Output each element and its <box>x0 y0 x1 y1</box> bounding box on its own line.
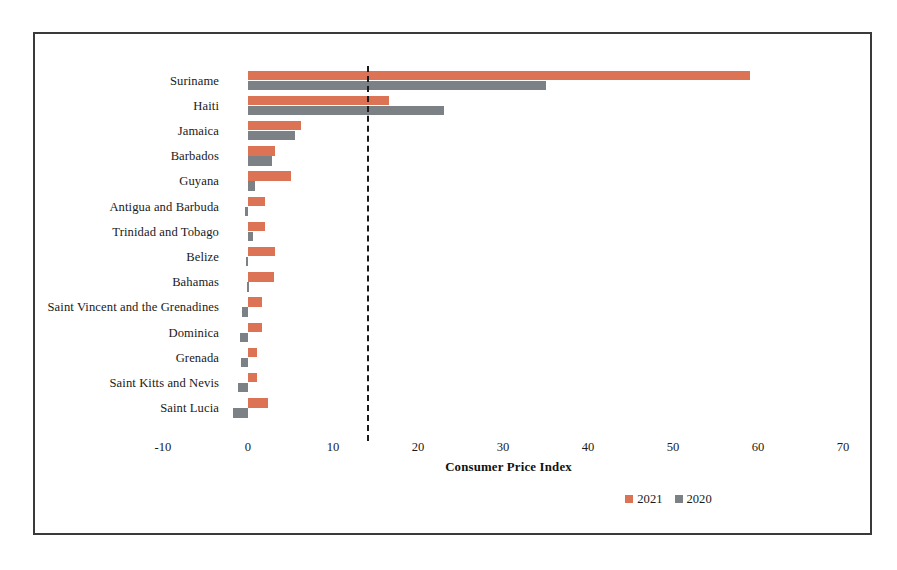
chart-page: SurinameHaitiJamaicaBarbadosGuyanaAntigu… <box>0 0 897 570</box>
bar-2020-grenada <box>241 358 248 368</box>
bar-2020-suriname <box>248 81 546 91</box>
chart-row: Dominica <box>35 320 870 345</box>
category-label: Antigua and Barbuda <box>109 200 219 213</box>
x-axis-title-text: Consumer Price Index <box>445 460 572 474</box>
x-axis-title: Consumer Price Index <box>35 460 870 475</box>
category-label: Grenada <box>176 351 219 364</box>
legend-swatch-2020 <box>675 495 683 503</box>
legend-label: 2020 <box>687 492 712 506</box>
bar-2020-saint-vincent-and-the-grenadines <box>242 307 248 317</box>
reference-line <box>367 66 369 441</box>
category-label: Trinidad and Tobago <box>112 225 219 238</box>
chart-row: Bahamas <box>35 270 870 295</box>
bar-2021-suriname <box>248 71 750 81</box>
category-label: Saint Vincent and the Grenadines <box>48 301 219 314</box>
chart-row: Guyana <box>35 169 870 194</box>
x-axis: -10010203040506070 <box>35 440 870 460</box>
legend: 20212020 <box>35 492 870 507</box>
bar-2021-saint-kitts-and-nevis <box>248 373 257 383</box>
x-axis-tick: 20 <box>412 440 425 455</box>
bar-2020-belize <box>246 257 248 267</box>
x-axis-tick: 60 <box>752 440 765 455</box>
x-axis-tick: 30 <box>497 440 510 455</box>
bar-2021-guyana <box>248 171 291 181</box>
chart-row: Grenada <box>35 345 870 370</box>
plot-area: SurinameHaitiJamaicaBarbadosGuyanaAntigu… <box>35 34 870 533</box>
bar-2021-belize <box>248 247 275 257</box>
bar-2021-grenada <box>248 348 257 358</box>
bar-2021-trinidad-and-tobago <box>248 222 265 232</box>
legend-item-2021[interactable]: 2021 <box>625 492 662 507</box>
category-label: Saint Kitts and Nevis <box>110 377 220 390</box>
bar-2020-dominica <box>240 333 248 343</box>
chart-row: Suriname <box>35 68 870 93</box>
legend-inner: 20212020 <box>619 492 717 507</box>
chart-row: Jamaica <box>35 118 870 143</box>
chart-row: Saint Lucia <box>35 396 870 421</box>
legend-label: 2021 <box>637 492 662 506</box>
chart-row: Saint Vincent and the Grenadines <box>35 295 870 320</box>
category-label: Saint Lucia <box>160 402 219 415</box>
chart-frame: SurinameHaitiJamaicaBarbadosGuyanaAntigu… <box>33 32 872 535</box>
category-label: Guyana <box>179 175 219 188</box>
legend-item-2020[interactable]: 2020 <box>675 492 712 507</box>
category-label: Dominica <box>169 326 219 339</box>
bar-2020-antigua-and-barbuda <box>245 207 248 217</box>
category-label: Haiti <box>193 99 219 112</box>
bar-2021-barbados <box>248 146 275 156</box>
bar-2021-saint-vincent-and-the-grenadines <box>248 297 262 307</box>
bar-2020-trinidad-and-tobago <box>248 232 253 242</box>
bar-2021-dominica <box>248 323 262 333</box>
bar-2021-bahamas <box>248 272 274 282</box>
x-axis-tick: -10 <box>155 440 172 455</box>
bar-2020-saint-lucia <box>233 408 248 418</box>
bar-2020-bahamas <box>247 282 249 292</box>
bar-2020-saint-kitts-and-nevis <box>238 383 248 393</box>
x-axis-tick: 70 <box>837 440 850 455</box>
category-label: Jamaica <box>178 125 219 138</box>
x-axis-tick: 40 <box>582 440 595 455</box>
x-axis-tick: 50 <box>667 440 680 455</box>
bar-2021-jamaica <box>248 121 301 131</box>
bar-2021-saint-lucia <box>248 398 268 408</box>
bar-2020-barbados <box>248 156 272 166</box>
chart-row: Trinidad and Tobago <box>35 219 870 244</box>
legend-swatch-2021 <box>625 495 633 503</box>
chart-row: Barbados <box>35 144 870 169</box>
chart-row: Belize <box>35 244 870 269</box>
bar-2020-haiti <box>248 106 444 116</box>
bar-2021-antigua-and-barbuda <box>248 197 265 207</box>
category-label: Suriname <box>170 74 219 87</box>
x-axis-tick: 10 <box>327 440 340 455</box>
bar-2020-guyana <box>248 181 255 191</box>
category-label: Bahamas <box>172 276 219 289</box>
chart-row: Saint Kitts and Nevis <box>35 370 870 395</box>
chart-row: Antigua and Barbuda <box>35 194 870 219</box>
category-label: Belize <box>186 251 219 264</box>
chart-row: Haiti <box>35 93 870 118</box>
bar-2020-jamaica <box>248 131 295 141</box>
x-axis-tick: 0 <box>245 440 251 455</box>
category-label: Barbados <box>171 150 219 163</box>
